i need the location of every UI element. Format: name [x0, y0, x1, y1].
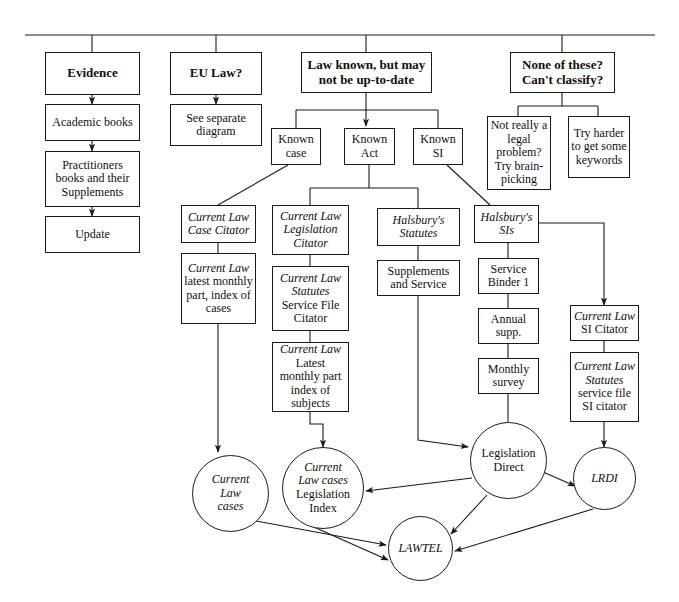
edge-legdirect-legindex — [366, 478, 472, 491]
ellipse-current-law-cases-line1: Current — [212, 472, 250, 486]
node-service-binder-1-label: Service Binder 1 — [481, 263, 536, 290]
node-service-binder-1[interactable]: Service Binder 1 — [478, 258, 539, 294]
node-annual-supp[interactable]: Annual supp. — [478, 308, 539, 344]
ellipse-lawtel[interactable]: LAWTEL — [388, 516, 453, 581]
node-cl-latest-monthly-line2: latest monthly part, index of cases — [184, 274, 252, 315]
node-law-known-label: Law known, but may not be up-to-date — [304, 58, 429, 87]
node-evidence-label: Evidence — [48, 66, 137, 81]
node-eu-law-label: EU Law? — [173, 66, 259, 81]
edge-lrdi-lawtel — [455, 509, 593, 551]
node-academic-books[interactable]: Academic books — [45, 104, 140, 141]
ellipse-cl-cases-legislation-index-line4: Index — [309, 501, 336, 515]
node-cl-legislation-citator-line1: Current Law — [280, 209, 341, 223]
edge-knowncase-clcasecitator — [218, 165, 288, 205]
node-see-separate-diagram[interactable]: See separate diagram — [170, 104, 262, 146]
node-cl-si-citator[interactable]: Current Law SI Citator — [570, 305, 639, 341]
node-see-separate-diagram-label: See separate diagram — [173, 112, 259, 139]
node-cl-statutes-service-file-line2: Service File Citator — [282, 298, 340, 325]
edge-legdirect-lawtel — [451, 495, 487, 534]
ellipse-current-law-cases-line2: Law — [220, 486, 241, 500]
node-practitioners-books[interactable]: Practitioners books and their Supplement… — [45, 151, 140, 207]
edge-halssis-clsicitator — [539, 223, 604, 305]
node-halsburys-statutes-line2: Statutes — [400, 226, 438, 240]
node-known-act[interactable]: Known Act — [344, 128, 395, 165]
node-annual-supp-label: Annual supp. — [481, 313, 536, 340]
ellipse-cl-cases-legislation-index-line1: Current — [304, 460, 342, 474]
node-not-really-legal[interactable]: Not really a legal problem? Try brain-pi… — [487, 116, 551, 190]
node-halsburys-sis-label: Halsbury's SIs — [477, 211, 536, 238]
node-halsburys-statutes-line1: Halsbury's — [393, 213, 445, 227]
node-known-case-label: Known case — [274, 133, 318, 160]
node-update-label: Update — [48, 228, 137, 241]
ellipse-cl-cases-legislation-index-line3: Legislation — [296, 487, 350, 501]
ellipse-current-law-cases-line3: cases — [218, 499, 244, 513]
node-cl-legislation-citator[interactable]: Current Law Legislation Citator — [272, 205, 349, 255]
node-cl-latest-monthly[interactable]: Current Law latest monthly part, index o… — [181, 253, 256, 324]
node-cl-si-citator-line1: Current Law — [574, 309, 635, 323]
node-eu-law[interactable]: EU Law? — [170, 52, 262, 95]
node-practitioners-books-label: Practitioners books and their Supplement… — [48, 159, 137, 199]
edge-cllatest-legindex — [310, 412, 323, 447]
node-cl-case-citator-line2: Case Citator — [188, 223, 250, 237]
node-cl-legislation-citator-line2: Legislation Citator — [283, 222, 337, 249]
ellipse-lrdi[interactable]: LRDI — [573, 447, 636, 510]
node-try-harder-label: Try harder to get some keywords — [571, 127, 627, 167]
node-halsburys-sis[interactable]: Halsbury's SIs — [474, 205, 539, 243]
flowchart-canvas: Evidence Academic books Practitioners bo… — [0, 0, 679, 602]
node-halsburys-statutes[interactable]: Halsbury's Statutes — [377, 208, 460, 246]
node-supplements-and-service-label: Supplements and Service — [380, 265, 457, 292]
ellipse-legislation-direct-line1: Legislation — [482, 446, 536, 460]
node-monthly-survey[interactable]: Monthly survey — [478, 358, 539, 394]
node-none-of-these-label: None of these? Can't classify? — [513, 58, 612, 87]
node-cl-case-citator-line1: Current Law — [188, 210, 249, 224]
ellipse-lrdi-label: LRDI — [591, 472, 618, 486]
node-cl-statutes-si-citator-line1: Current Law Statutes — [574, 359, 635, 386]
ellipse-cl-cases-legislation-index[interactable]: Current Law cases Legislation Index — [282, 447, 364, 529]
node-none-of-these[interactable]: None of these? Can't classify? — [510, 52, 615, 93]
node-cl-latest-subjects[interactable]: Current Law Latest monthly part index of… — [272, 342, 349, 412]
node-evidence[interactable]: Evidence — [45, 52, 140, 95]
node-cl-latest-monthly-line1: Current Law — [188, 261, 249, 275]
node-update[interactable]: Update — [45, 216, 140, 253]
node-known-si-label: Known SI — [416, 133, 460, 160]
edge-supplements-legislationdirect — [418, 296, 468, 447]
ellipse-cl-cases-legislation-index-line2: Law cases — [298, 473, 348, 487]
node-cl-si-citator-line2: SI Citator — [581, 322, 628, 336]
node-cl-statutes-service-file[interactable]: Current Law Statutes Service File Citato… — [272, 266, 349, 331]
node-cl-case-citator[interactable]: Current Law Case Citator — [181, 205, 256, 243]
node-academic-books-label: Academic books — [48, 116, 137, 129]
ellipse-legislation-direct[interactable]: Legislation Direct — [470, 422, 547, 499]
node-cl-statutes-si-citator-line2: service file SI citator — [578, 386, 631, 413]
node-cl-latest-subjects-line1: Current Law — [280, 342, 341, 356]
node-try-harder[interactable]: Try harder to get some keywords — [568, 116, 630, 178]
node-law-known[interactable]: Law known, but may not be up-to-date — [301, 52, 432, 93]
edge-legdirect-lrdi — [543, 472, 575, 486]
node-supplements-and-service[interactable]: Supplements and Service — [377, 260, 460, 296]
node-known-si[interactable]: Known SI — [413, 128, 463, 165]
node-monthly-survey-label: Monthly survey — [481, 363, 536, 390]
ellipse-legislation-direct-line2: Direct — [494, 460, 524, 474]
ellipse-lawtel-label: LAWTEL — [398, 542, 442, 556]
node-cl-latest-subjects-line2: Latest monthly part index of subjects — [280, 356, 342, 410]
ellipse-current-law-cases[interactable]: Current Law cases — [192, 455, 269, 532]
node-known-act-label: Known Act — [347, 133, 392, 160]
edge-knownsi-halsburyssis — [447, 165, 490, 205]
node-cl-statutes-si-citator[interactable]: Current Law Statutes service file SI cit… — [570, 352, 639, 422]
node-cl-statutes-service-file-line1: Current Law Statutes — [280, 271, 341, 298]
edge-legindex-lawtel — [307, 524, 388, 560]
node-known-case[interactable]: Known case — [271, 128, 321, 165]
node-not-really-legal-label: Not really a legal problem? Try brain-pi… — [490, 119, 548, 186]
